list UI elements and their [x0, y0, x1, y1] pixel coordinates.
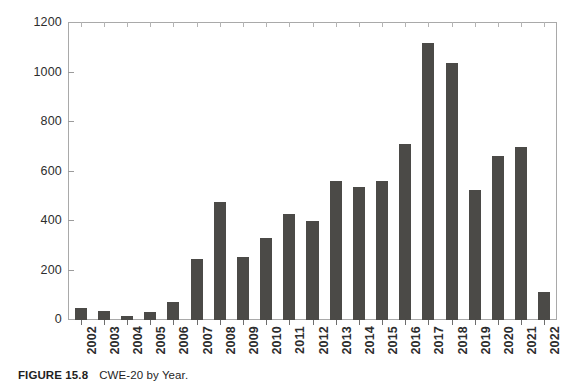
bar — [469, 190, 481, 320]
figure-title: CWE-20 by Year. — [99, 369, 188, 381]
x-axis-tick-label: 2017 — [433, 326, 445, 355]
bar — [399, 144, 411, 320]
x-axis-tick-labels: 2002200320042005200620072008200920102011… — [69, 326, 556, 360]
x-axis-tick-label: 2004 — [132, 326, 144, 355]
x-axis-tick — [544, 320, 545, 325]
bar — [260, 238, 272, 320]
x-axis-tick — [289, 320, 290, 325]
x-axis-tick — [220, 320, 221, 325]
y-axis-tick-labels: 020040060080010001200 — [0, 22, 62, 320]
x-axis-tick-label: 2013 — [341, 326, 353, 355]
y-axis-tick-label: 1200 — [0, 16, 62, 28]
bar — [283, 214, 295, 320]
x-axis-tick-label: 2021 — [526, 326, 538, 355]
y-axis-tick-label: 400 — [0, 214, 62, 226]
x-axis-tick — [266, 320, 267, 325]
y-axis-tick-label: 0 — [0, 313, 62, 325]
x-axis-tick-label: 2019 — [480, 326, 492, 355]
x-axis-tick — [81, 320, 82, 325]
bar — [446, 63, 458, 320]
bar — [167, 302, 179, 320]
bar — [515, 147, 527, 320]
x-axis-tick — [452, 320, 453, 325]
x-axis-tick — [197, 320, 198, 325]
x-axis-tick-label: 2003 — [109, 326, 121, 355]
x-axis-tick — [359, 320, 360, 325]
x-axis-tick — [428, 320, 429, 325]
x-axis-tick — [313, 320, 314, 325]
bar — [353, 187, 365, 320]
y-axis-tick-label: 800 — [0, 115, 62, 127]
x-axis-tick-label: 2008 — [225, 326, 237, 355]
bar — [144, 312, 156, 320]
x-axis-tick-label: 2012 — [318, 326, 330, 355]
x-axis-tick — [127, 320, 128, 325]
x-axis-tick-label: 2011 — [294, 326, 306, 354]
y-axis-tick-label: 600 — [0, 165, 62, 177]
bar — [191, 259, 203, 320]
x-axis-tick-label: 2002 — [86, 326, 98, 355]
x-axis-tick-label: 2009 — [248, 326, 260, 355]
figure-container: 020040060080010001200 200220032004200520… — [0, 0, 582, 390]
bar — [75, 308, 87, 320]
bar — [376, 181, 388, 320]
x-axis-tick-label: 2005 — [155, 326, 167, 355]
bar-series — [69, 23, 556, 320]
y-axis-tick-label: 1000 — [0, 66, 62, 78]
x-axis-tick — [104, 320, 105, 325]
x-axis-tick — [336, 320, 337, 325]
bar — [538, 292, 550, 320]
x-axis-tick-label: 2014 — [364, 326, 376, 355]
x-axis-tick — [382, 320, 383, 325]
bar — [237, 257, 249, 320]
bar — [214, 202, 226, 320]
x-axis-tick — [150, 320, 151, 325]
bar-chart: 020040060080010001200 200220032004200520… — [0, 0, 582, 358]
x-axis-tick-label: 2010 — [271, 326, 283, 355]
figure-number: FIGURE 15.8 — [18, 369, 88, 381]
x-axis-tick-label: 2018 — [457, 326, 469, 355]
bar — [121, 316, 133, 320]
bar — [98, 311, 110, 320]
x-axis-tick-label: 2006 — [178, 326, 190, 355]
x-axis-tick-label: 2020 — [503, 326, 515, 355]
bar — [492, 156, 504, 320]
x-axis-tick-label: 2016 — [410, 326, 422, 355]
x-axis-tick — [498, 320, 499, 325]
y-axis-tick-label: 200 — [0, 264, 62, 276]
bar — [306, 221, 318, 320]
x-axis-tick — [521, 320, 522, 325]
x-axis-tick-label: 2015 — [387, 326, 399, 355]
bar — [330, 181, 342, 320]
x-axis-tick — [405, 320, 406, 325]
x-axis-tick-label: 2022 — [549, 326, 561, 355]
x-axis-tick-label: 2007 — [202, 326, 214, 355]
x-axis-tick — [173, 320, 174, 325]
figure-caption: FIGURE 15.8CWE-20 by Year. — [18, 368, 188, 382]
x-axis-tick — [475, 320, 476, 325]
bar — [422, 43, 434, 320]
x-axis-tick — [243, 320, 244, 325]
